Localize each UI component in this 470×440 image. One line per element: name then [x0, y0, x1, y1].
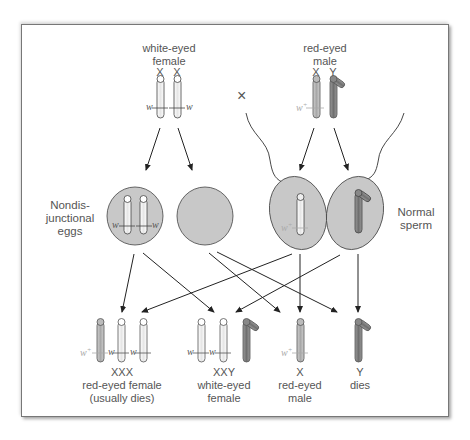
offspring-x-label: X red-eyed male — [275, 366, 325, 405]
offspring-y-outcome: dies — [340, 379, 380, 392]
female-label-line2: female — [139, 55, 199, 68]
offspring-xxy-label: XXY white-eyed female — [189, 366, 259, 405]
sperm-cells — [262, 170, 391, 255]
offspring-xxx-label: XXX red-eyed female (usually dies) — [72, 366, 172, 405]
male-label-line2: male — [295, 55, 355, 68]
offspring-xxx-note: (usually dies) — [72, 392, 172, 405]
offspring-xxx-phenotype: red-eyed female — [72, 379, 172, 392]
egg-cells — [107, 187, 233, 245]
offspring-y-label: Y dies — [340, 366, 380, 392]
sperm-label: Normal sperm — [392, 206, 440, 232]
female-allele-left: w — [146, 101, 153, 112]
male-xy-chromosomes — [306, 76, 346, 119]
male-chrom-y-label: Y — [328, 66, 338, 79]
offspring-xxx-chromosomes — [92, 319, 151, 363]
offspring-x-phenotype: red-eyed — [275, 379, 325, 392]
female-allele-right: w — [186, 101, 193, 112]
female-chrom-x2-label: X — [172, 66, 182, 79]
eggs-label: Nondis- junctional eggs — [40, 199, 100, 238]
offspring-x-chromosome — [292, 319, 308, 363]
eggs-label-line2: junctional — [40, 212, 100, 225]
cross-symbol: × — [237, 87, 246, 105]
xxx-allele-3: w — [130, 346, 137, 357]
xxy-allele-1: w — [187, 346, 194, 357]
eggs-label-line3: eggs — [40, 225, 100, 238]
sperm-allele: w+ — [281, 221, 292, 233]
x-male-allele: w+ — [281, 346, 292, 358]
offspring-xxy-genotype: XXY — [189, 366, 259, 379]
offspring-xxy-phenotype: white-eyed — [189, 379, 259, 392]
male-label: red-eyed male — [295, 42, 355, 68]
meiosis-arrows — [146, 128, 348, 170]
offspring-y-genotype: Y — [340, 366, 380, 379]
sperm-label-line1: Normal — [392, 206, 440, 219]
offspring-x-genotype: X — [275, 366, 325, 379]
male-label-line1: red-eyed — [295, 42, 355, 55]
female-chrom-x1-label: X — [155, 66, 165, 79]
xxx-allele-2: w — [108, 346, 115, 357]
fertilization-arrows — [122, 252, 358, 312]
offspring-x-sex: male — [275, 392, 325, 405]
offspring-xxy-sex: female — [189, 392, 259, 405]
male-allele: w+ — [296, 101, 307, 113]
female-x-chromosomes — [152, 76, 185, 119]
eggs-label-line1: Nondis- — [40, 199, 100, 212]
sperm-tails — [246, 113, 404, 182]
offspring-xxx-genotype: XXX — [72, 366, 172, 379]
xxy-allele-2: w — [209, 346, 216, 357]
egg-allele-right: w — [152, 219, 159, 230]
egg-allele-left: w — [112, 219, 119, 230]
female-label: white-eyed female — [139, 42, 199, 68]
male-chrom-x-label: X — [311, 66, 321, 79]
offspring-xxy-chromosomes — [193, 319, 260, 363]
offspring-y-chromosome — [355, 319, 372, 363]
xxx-allele-1: w+ — [80, 346, 91, 358]
sperm-label-line2: sperm — [392, 219, 440, 232]
female-label-line1: white-eyed — [139, 42, 199, 55]
